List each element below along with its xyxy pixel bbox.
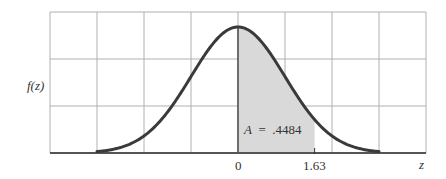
area-annotation: A = .4484 <box>244 122 302 138</box>
x-axis-label: z <box>419 157 424 173</box>
y-axis-label: f(z) <box>27 78 44 94</box>
area-value: = .4484 <box>252 122 302 137</box>
tick-label-1-63: 1.63 <box>303 158 326 174</box>
tick-label-zero: 0 <box>235 158 242 174</box>
area-symbol: A <box>244 122 252 137</box>
normal-curve-chart <box>0 0 446 179</box>
